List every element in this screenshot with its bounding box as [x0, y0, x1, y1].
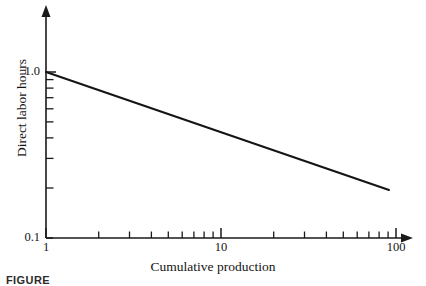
x-tick-label-100: 100: [380, 241, 412, 254]
y-axis-title: Direct labor hours: [14, 38, 30, 178]
x-tick-label-1: 1: [34, 241, 58, 254]
learning-curve-line: [46, 72, 389, 190]
figure-caption: FIGURE: [6, 274, 50, 286]
x-axis-title: Cumulative production: [0, 259, 426, 275]
y-axis-arrow-icon: [42, 5, 51, 17]
x-tick-label-10: 10: [207, 241, 235, 254]
